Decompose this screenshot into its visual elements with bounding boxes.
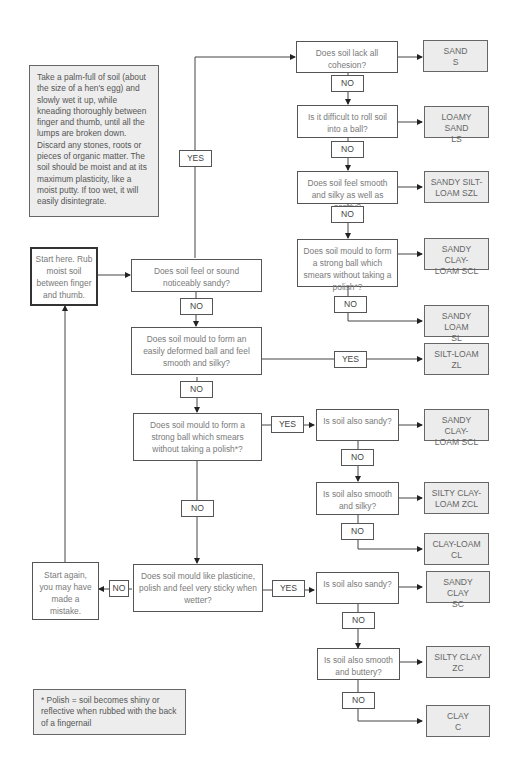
no-label-sandy-q2: NO [331, 141, 364, 158]
main-question-silky-ball: Does soil mould to form an easily deform… [131, 327, 262, 375]
clayloam-question-sandy: Is soil also sandy? [316, 409, 399, 441]
result-silt-loam: SILT-LOAM ZL [424, 343, 489, 375]
soil-texture-flowchart: Take a palm-full of soil (about the size… [0, 0, 519, 775]
clay-question-buttery: Is soil also smooth and buttery? [317, 648, 400, 680]
sandy-question-strong-ball: Does soil mould to form a strong ball wh… [297, 239, 398, 287]
result-loamy-sand: LOAMY SAND LS [424, 106, 489, 138]
polish-footnote: * Polish = soil becomes shiny or reflect… [33, 689, 186, 735]
sandy-question-smooth-silky: Does soil feel smooth and silky as well … [297, 171, 398, 204]
no-label-clayloam-q1: NO [341, 449, 374, 466]
result-clay-loam: CLAY-LOAM CL [424, 533, 489, 565]
no-label-sandy-q3: NO [331, 206, 364, 223]
main-question-strong-ball: Does soil mould to form a strong ball wh… [133, 413, 262, 461]
clay-question-sandy: Is soil also sandy? [316, 572, 399, 604]
no-label-sandy-q4: NO [334, 296, 367, 313]
instructions-note: Take a palm-full of soil (about the size… [29, 65, 159, 217]
start-box: Start here. Rub moist soil between finge… [30, 247, 98, 306]
result-sandy-loam: SANDY LOAM SL [424, 305, 489, 337]
result-silty-clay: SILTY CLAY ZC [426, 646, 490, 678]
result-sandy-clay-loam-2: SANDY CLAY- LOAM SCL [424, 409, 489, 441]
result-sand: SAND S [423, 40, 488, 72]
no-label-main-q1: NO [180, 298, 213, 315]
sandy-question-cohesion: Does soil lack all cohesion? [296, 41, 398, 73]
result-sandy-clay: SANDY CLAY SC [426, 571, 490, 603]
yes-label-sandy: YES [179, 150, 212, 167]
no-label-main-q2: NO [180, 381, 213, 398]
yes-label-main-q3: YES [271, 416, 304, 433]
yes-label-main-q2: YES [334, 351, 367, 368]
no-label-main-q3: NO [181, 500, 214, 517]
no-label-sandy-q1: NO [331, 75, 364, 92]
clayloam-question-silky: Is soil also smooth and silky? [316, 482, 399, 515]
no-label-clayloam-q2: NO [341, 523, 374, 540]
main-question-sandy: Does soil feel or sound noticeably sandy… [131, 259, 262, 292]
no-label-clay-q2: NO [342, 692, 375, 709]
result-silty-clay-loam: SILTY CLAY- LOAM ZCL [424, 482, 489, 514]
result-clay: CLAY C [426, 705, 490, 737]
no-label-main-q4: NO [109, 580, 129, 597]
restart-box: Start again, you may have made a mistake… [32, 562, 99, 620]
main-question-plasticine: Does soil mould like plasticine, polish … [133, 564, 263, 612]
sandy-question-roll-ball: Is it difficult to roll soil into a ball… [297, 105, 398, 138]
result-sandy-clay-loam-1: SANDY CLAY- LOAM SCL [424, 238, 489, 270]
yes-label-main-q4: YES [272, 580, 305, 597]
no-label-clay-q1: NO [342, 612, 375, 629]
result-sandy-silt-loam: SANDY SILT- LOAM SZL [424, 171, 489, 203]
